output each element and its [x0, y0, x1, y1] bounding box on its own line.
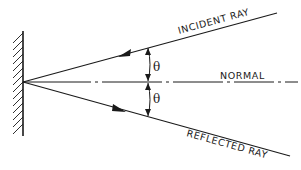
mirror	[13, 31, 23, 136]
mirror-hatching	[13, 33, 23, 134]
reflected-arrow-icon	[112, 104, 126, 112]
normal-label: NORMAL	[220, 70, 265, 81]
reflection-diagram: θ θ INCIDENT RAY NORMAL REFLECTED RAY	[0, 0, 301, 170]
angle-of-reflection-label: θ	[153, 92, 160, 106]
angle-of-incidence-label: θ	[153, 60, 160, 74]
reflected-ray-label: REFLECTED RAY	[185, 127, 269, 160]
incident-ray-label: INCIDENT RAY	[177, 6, 251, 36]
